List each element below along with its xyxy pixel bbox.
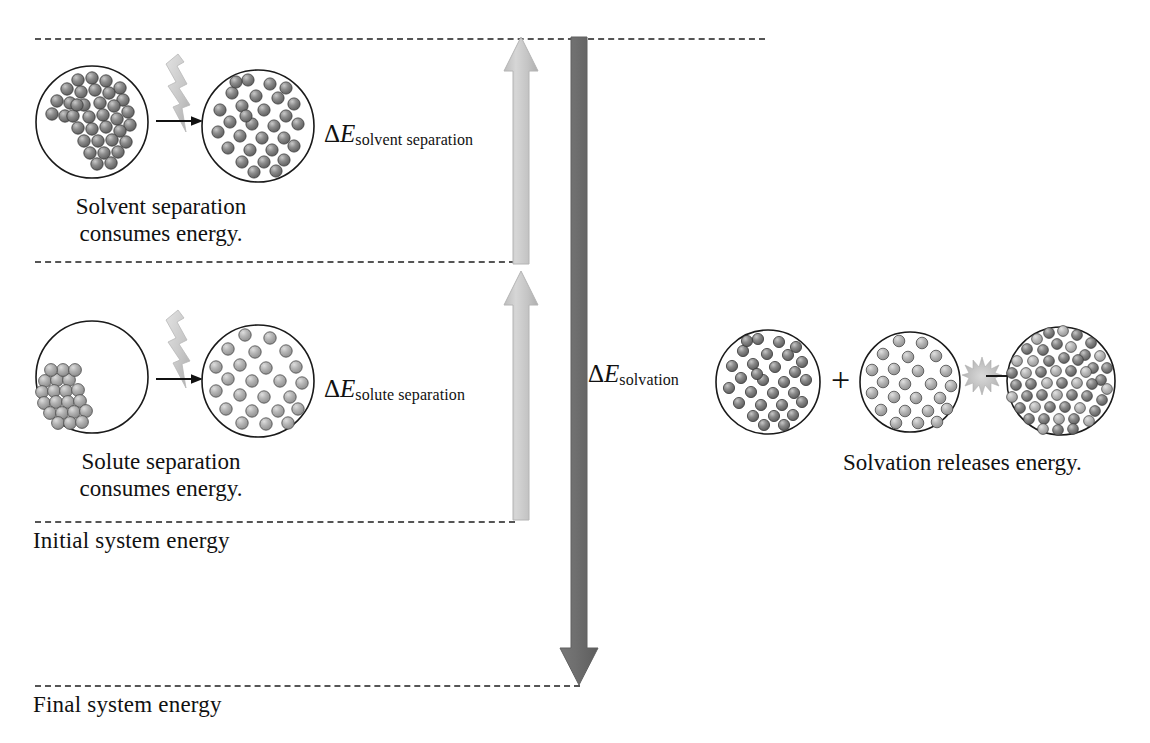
solvent-after-vessel <box>198 66 318 186</box>
energy-variable: E <box>340 375 355 402</box>
caption-line-2: consumes energy. <box>36 220 286 247</box>
energy-level-line-initial <box>35 521 515 523</box>
solute-before-vessel <box>32 317 152 437</box>
solvent-before-vessel <box>32 62 152 182</box>
delta-symbol: Δ <box>324 120 340 147</box>
energy-variable: E <box>340 120 355 147</box>
energy-level-line-after-solute-separation <box>35 261 515 263</box>
solute-separation-caption: Solute separation consumes energy. <box>36 448 286 502</box>
energy-level-line-top <box>35 38 765 40</box>
caption-line-2: consumes energy. <box>36 475 286 502</box>
solute-separation-energy-arrow <box>500 268 544 522</box>
delta-e-solute-separation-label: ΔEsolute separation <box>324 375 465 404</box>
delta-e-solvent-separation-label: ΔEsolvent separation <box>324 120 473 149</box>
plus-operator: + <box>831 363 850 397</box>
solvation-solvent-vessel <box>712 326 824 438</box>
solvent-separation-caption: Solvent separation consumes energy. <box>36 193 286 247</box>
solute-after-vessel <box>198 321 318 441</box>
caption-line-1: Solute separation <box>36 448 286 475</box>
solute-transform-right-arrow-icon <box>156 370 204 388</box>
initial-system-energy-label: Initial system energy <box>33 528 230 554</box>
solution-vessel <box>1003 323 1119 439</box>
final-system-energy-label: Final system energy <box>33 692 222 718</box>
delta-subscript: solute separation <box>355 386 465 403</box>
solvation-solute-vessel <box>856 328 964 436</box>
solvation-caption: Solvation releases energy. <box>843 450 1082 476</box>
delta-symbol: Δ <box>324 375 340 402</box>
energy-diagram-canvas: Initial system energy Final system energ… <box>0 0 1150 743</box>
energy-level-line-final <box>35 685 580 687</box>
solvent-separation-energy-arrow <box>500 34 544 266</box>
delta-subscript: solvation <box>619 371 679 388</box>
energy-variable: E <box>604 360 619 387</box>
caption-line-1: Solvation releases energy. <box>843 450 1082 475</box>
delta-e-solvation-label: ΔEsolvation <box>588 360 679 389</box>
delta-subscript: solvent separation <box>355 131 473 148</box>
solvent-transform-right-arrow-icon <box>156 112 204 130</box>
caption-line-1: Solvent separation <box>36 193 286 220</box>
delta-symbol: Δ <box>588 360 604 387</box>
